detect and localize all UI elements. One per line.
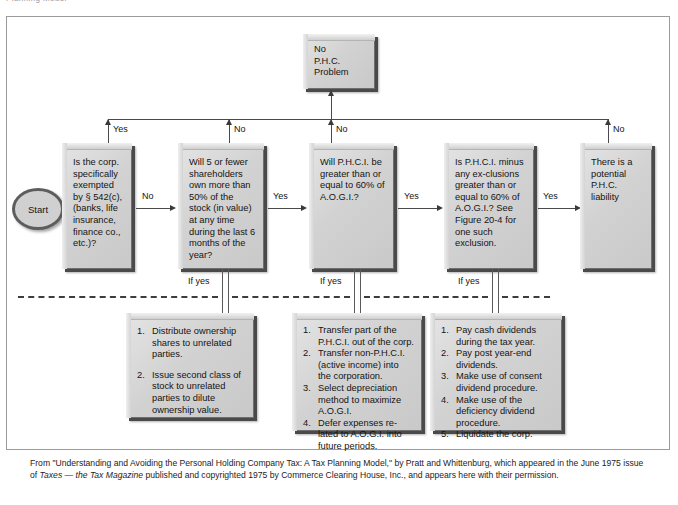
item-text: Select depreciation method to maximize A…: [318, 383, 401, 416]
label-yes-d2-d3: Yes: [273, 191, 288, 201]
action-box-1: 1. Distribute ownership shares to unrela…: [126, 313, 254, 418]
item-number: 3.: [303, 383, 311, 395]
item-text: Transfer non-P.H.C.I. (active income) in…: [318, 348, 405, 381]
credit-italic-title: Taxes — the Tax Magazine: [40, 470, 144, 480]
action-list-3: 1. Pay cash dividends during the tax yea…: [441, 325, 554, 441]
dashed-separator-seg-2: [232, 296, 350, 298]
ifyes-drop-3a: [354, 269, 355, 313]
arrow-up-5: [605, 119, 611, 125]
label-top-no-3: No: [336, 124, 348, 134]
list-item: 4. Make use of the deficiency dividend p…: [441, 395, 554, 430]
ifyes-drop-2a: [222, 269, 223, 313]
item-number: 1.: [303, 325, 311, 337]
label-if-yes-2: If yes: [320, 276, 342, 286]
item-number: 1.: [441, 325, 449, 337]
arrow-d3-to-d4: [437, 205, 443, 211]
node-start: Start: [12, 188, 64, 230]
dashed-separator-seg-3: [364, 296, 488, 298]
list-item: 2. Issue second class of stock to unrela…: [137, 370, 246, 416]
no-phc-line-1: No: [314, 44, 367, 56]
outcome-text: There is a potential P.H.C. liability: [581, 144, 651, 209]
label-if-yes-3: If yes: [458, 276, 480, 286]
label-yes-d3-d4: Yes: [404, 191, 419, 201]
item-text: Make use of consent dividend procedure.: [456, 371, 542, 393]
list-item: 2. Pay post year-end dividends.: [441, 348, 554, 371]
edge-d2-to-d3: [268, 208, 304, 209]
edge-d1-to-d2: [136, 208, 173, 209]
arrow-up-2: [226, 119, 232, 125]
list-item: 2. Transfer non-P.H.C.I. (active income)…: [303, 348, 414, 383]
node-decision-3: Will P.H.C.I. be greater than or equal t…: [309, 143, 394, 269]
dashed-separator-seg-4: [502, 296, 550, 298]
ifyes-drop-4a: [492, 269, 493, 313]
item-text: Pay post year-end dividends.: [456, 348, 531, 370]
ifyes-drop-4b: [498, 269, 499, 313]
label-no-d1-d2: No: [142, 191, 154, 201]
list-item: 1. Pay cash dividends during the tax yea…: [441, 325, 554, 348]
item-number: 3.: [441, 371, 449, 383]
label-yes-d4-d5: Yes: [543, 191, 558, 201]
action-box-3: 1. Pay cash dividends during the tax yea…: [430, 313, 562, 431]
item-number: 2.: [441, 348, 449, 360]
credit-part-2: published and copyrighted 1975 by Commer…: [143, 470, 559, 480]
arrow-up-3: [328, 119, 334, 125]
item-text: Defer expenses re-lated to A.O.G.I. into…: [318, 418, 402, 451]
decision-1-text: Is the corp. specifically exempted by § …: [63, 144, 131, 256]
decision-3-text: Will P.H.C.I. be greater than or equal t…: [310, 144, 393, 209]
item-text: Transfer part of the P.H.C.I. out of the…: [318, 325, 414, 347]
label-top-no-5: No: [613, 124, 625, 134]
label-if-yes-1: If yes: [188, 276, 210, 286]
action-list-2: 1. Transfer part of the P.H.C.I. out of …: [303, 325, 414, 453]
source-credit: From "Understanding and Avoiding the Per…: [30, 458, 650, 481]
list-item: 3. Make use of consent dividend procedur…: [441, 371, 554, 394]
arrow-into-nophc: [328, 90, 334, 96]
item-number: 1.: [137, 326, 145, 338]
label-top-no-2: No: [234, 124, 246, 134]
arrow-d1-to-d2: [170, 205, 176, 211]
edge-d3-to-d4: [398, 208, 440, 209]
list-item: 3. Select depreciation method to maximiz…: [303, 383, 414, 418]
arrow-d2-to-d3: [301, 205, 307, 211]
top-rail: [108, 119, 608, 120]
list-item: 4. Defer expenses re-lated to A.O.G.I. i…: [303, 418, 414, 453]
item-text: Make use of the deficiency dividend proc…: [456, 395, 535, 428]
action-list-1: 1. Distribute ownership shares to unrela…: [137, 326, 246, 416]
item-text: Liquidate the corp.: [456, 429, 533, 439]
node-decision-4: Is P.H.C.I. minus any ex-clusions greate…: [444, 143, 534, 269]
action-box-2: 1. Transfer part of the P.H.C.I. out of …: [292, 313, 422, 431]
item-number: 2.: [303, 348, 311, 360]
decision-2-text: Will 5 or fewer shareholders own more th…: [179, 144, 263, 267]
list-item: 1. Transfer part of the P.H.C.I. out of …: [303, 325, 414, 348]
item-number: 4.: [303, 418, 311, 430]
node-potential-liability: There is a potential P.H.C. liability: [580, 143, 652, 269]
item-text: Distribute ownership shares to unrelated…: [152, 326, 236, 359]
list-item: 5. Liquidate the corp.: [441, 429, 554, 441]
item-text: Issue second class of stock to unrelated…: [152, 370, 241, 415]
edge-rail-to-nophc: [331, 96, 332, 120]
node-decision-2: Will 5 or fewer shareholders own more th…: [178, 143, 264, 269]
node-decision-1: Is the corp. specifically exempted by § …: [62, 143, 132, 269]
item-number: 4.: [441, 395, 449, 407]
item-number: 2.: [137, 370, 145, 382]
start-label: Start: [28, 204, 48, 215]
no-phc-line-3: Problem: [314, 67, 367, 79]
flowchart-page: Planning Model No P.H.C. Problem Yes No …: [0, 0, 678, 505]
dashed-separator-seg-1: [18, 296, 218, 298]
item-text: Pay cash dividends during the tax year.: [456, 325, 536, 347]
no-phc-line-2: P.H.C.: [314, 56, 367, 68]
edge-d4-to-d5: [538, 208, 578, 209]
list-item: 1. Distribute ownership shares to unrela…: [137, 326, 246, 361]
arrow-up-1: [105, 119, 111, 125]
ifyes-drop-3b: [360, 269, 361, 313]
ifyes-drop-2b: [228, 269, 229, 313]
label-top-yes-1: Yes: [113, 124, 128, 134]
node-no-phc-problem: No P.H.C. Problem: [303, 34, 375, 89]
decision-4-text: Is P.H.C.I. minus any ex-clusions greate…: [445, 144, 533, 256]
clipped-header-text: Planning Model: [6, 0, 67, 3]
item-number: 5.: [441, 429, 449, 441]
